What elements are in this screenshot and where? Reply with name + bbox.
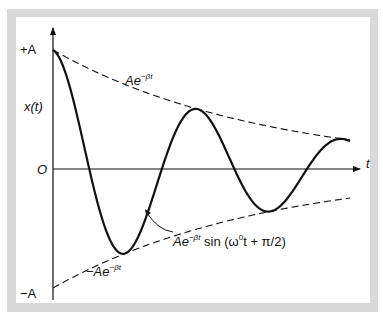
upper-envelope-exp: −βt [141,72,152,81]
lower-envelope-exp: −βt [110,263,121,272]
plot-area [0,0,383,317]
x-axis-label: t [366,157,370,170]
curve-label-func: sin (ω [200,234,238,249]
curve-label-leader [147,213,173,232]
lower-envelope-base: −Ae [86,264,110,279]
curve-label-base: Ae [173,234,189,249]
y-axis-label-text: x(t) [24,99,43,114]
tick-plus-a: +A [20,43,36,56]
upper-envelope-curve [53,50,350,140]
curve-label-func-suffix: t + π/2) [243,234,286,249]
tick-origin: O [37,163,47,176]
curve-label: Ae−βt sin (ω0t + π/2) [173,234,286,248]
lower-envelope-label: −Ae−βt [86,264,121,278]
tick-minus-a: −A [20,287,36,300]
upper-envelope-base: Ae [125,73,141,88]
curve-label-exp: −βt [189,233,200,242]
upper-envelope-label: Ae−βt [125,73,152,87]
damped-oscillation-curve [53,50,350,254]
y-axis-label: x(t) [24,100,43,113]
